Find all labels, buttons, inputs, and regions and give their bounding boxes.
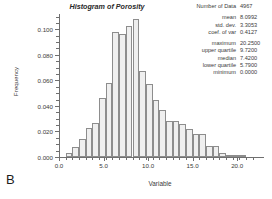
stat-value: 8.0992 xyxy=(240,14,266,21)
x-axis-tick-major xyxy=(104,157,105,161)
stat-value: 5.7900 xyxy=(240,62,266,69)
x-axis-tick xyxy=(126,157,127,160)
x-axis-tick xyxy=(146,157,147,160)
y-axis-tick xyxy=(55,55,59,56)
x-axis-tick xyxy=(179,157,180,160)
y-axis-tick-minor xyxy=(56,48,59,49)
y-axis-tick xyxy=(55,80,59,81)
histogram-bar xyxy=(213,146,220,157)
x-axis-tick xyxy=(112,157,113,160)
x-axis-tick xyxy=(233,157,234,160)
x-axis-tick xyxy=(133,157,134,160)
y-axis-tick-minor xyxy=(56,36,59,37)
x-axis-tick-major xyxy=(237,157,238,161)
stat-row: median7.4200 xyxy=(160,55,266,62)
histogram-bar xyxy=(92,123,99,157)
y-axis-tick xyxy=(55,29,59,30)
x-axis-tick xyxy=(246,157,247,160)
y-axis-tick-label: 0.080 xyxy=(28,52,53,59)
y-axis-tick-minor xyxy=(56,125,59,126)
histogram-bar xyxy=(166,121,173,157)
x-axis-tick-label: 0.0 xyxy=(46,162,72,169)
x-axis-tick xyxy=(253,157,254,160)
x-axis-tick xyxy=(173,157,174,160)
stat-row: upper quartile9.7200 xyxy=(160,47,266,54)
histogram-bar xyxy=(133,19,140,157)
histogram-bar xyxy=(159,110,166,157)
histogram-bar xyxy=(72,147,79,157)
x-axis-tick xyxy=(106,157,107,160)
x-axis-tick-label: 15.0 xyxy=(180,162,206,169)
statistics-block: Number of Data4967mean8.0992std. dev.3.3… xyxy=(160,3,266,77)
x-axis-title: Variable xyxy=(110,180,210,187)
y-axis-tick-minor xyxy=(56,93,59,94)
y-axis-tick-minor xyxy=(56,87,59,88)
stat-row: lower quartile5.7900 xyxy=(160,62,266,69)
stat-label: mean xyxy=(222,14,240,21)
y-axis-tick xyxy=(55,106,59,107)
y-axis-tick-minor xyxy=(56,23,59,24)
x-axis-tick xyxy=(153,157,154,160)
stat-count-value: 4967 xyxy=(240,3,266,10)
x-axis-tick-major xyxy=(148,157,149,161)
histogram-bar xyxy=(193,134,200,157)
stat-label: median xyxy=(218,55,240,62)
stat-value: 3.3053 xyxy=(240,22,266,29)
x-axis-tick-major xyxy=(193,157,194,161)
x-axis-tick-label: 10.0 xyxy=(135,162,161,169)
histogram-bar xyxy=(153,100,160,157)
y-axis-tick-minor xyxy=(56,138,59,139)
y-axis-tick-label: 0.000 xyxy=(28,154,53,161)
stat-count-label: Number of Data xyxy=(197,3,240,10)
stat-value: 0.0000 xyxy=(240,69,266,76)
histogram-bar xyxy=(139,71,146,157)
stat-row: minimum0.0000 xyxy=(160,69,266,76)
stat-label: maximum xyxy=(212,40,240,47)
y-axis-tick-minor xyxy=(56,74,59,75)
x-axis-tick xyxy=(166,157,167,160)
histogram-figure: Histogram of Porosity Frequency Variable… xyxy=(0,0,272,199)
x-axis-tick-label: 5.0 xyxy=(91,162,117,169)
histogram-bar xyxy=(179,124,186,157)
chart-title: Histogram of Porosity xyxy=(57,2,157,11)
stat-value: 0.4127 xyxy=(240,29,266,36)
histogram-bar xyxy=(146,84,153,157)
y-axis-tick-minor xyxy=(56,151,59,152)
y-axis-tick-minor xyxy=(56,144,59,145)
y-axis-tick-minor xyxy=(56,100,59,101)
stat-row: Number of Data4967 xyxy=(160,3,266,10)
x-axis-tick xyxy=(99,157,100,160)
histogram-bar xyxy=(112,32,119,157)
x-axis-tick-major xyxy=(59,157,60,161)
x-axis-tick xyxy=(119,157,120,160)
panel-letter: B xyxy=(6,172,15,187)
x-axis-tick xyxy=(186,157,187,160)
histogram-bar xyxy=(173,121,180,157)
x-axis-tick xyxy=(86,157,87,160)
histogram-bar xyxy=(79,139,86,157)
histogram-bar xyxy=(86,128,93,157)
x-axis-tick xyxy=(72,157,73,160)
y-axis-tick-minor xyxy=(56,42,59,43)
x-axis-tick xyxy=(206,157,207,160)
histogram-bar xyxy=(106,83,113,157)
y-axis-tick-minor xyxy=(56,17,59,18)
y-axis-tick-minor xyxy=(56,112,59,113)
stat-row: std. dev.3.3053 xyxy=(160,22,266,29)
stat-value: 7.4200 xyxy=(240,55,266,62)
y-axis-tick xyxy=(55,157,59,158)
stat-label: lower quartile xyxy=(203,62,240,69)
x-axis-tick xyxy=(66,157,67,160)
stat-label: coef. of var xyxy=(208,29,240,36)
histogram-bar xyxy=(99,98,106,157)
histogram-bar xyxy=(199,134,206,157)
histogram-bar xyxy=(206,146,213,157)
y-axis-title: Frequency xyxy=(12,55,19,109)
histogram-bar xyxy=(186,129,193,157)
stat-row: mean8.0992 xyxy=(160,14,266,21)
x-axis-tick xyxy=(92,157,93,160)
y-axis-tick-label: 0.060 xyxy=(28,77,53,84)
histogram-bar xyxy=(126,26,133,158)
stat-row: maximum20.2500 xyxy=(160,40,266,47)
x-axis-tick xyxy=(79,157,80,160)
